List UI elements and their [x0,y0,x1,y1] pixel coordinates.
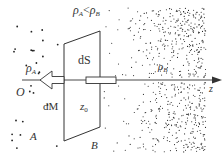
dm-label: dM [43,101,58,112]
rho-b-label: ρB [158,61,168,74]
z-axis-arrowhead-icon [212,77,222,84]
subscript-a: A [32,68,36,76]
point-a-label: A [30,131,37,142]
less-than-symbol: < [83,3,90,17]
z0-label: z0 [80,101,88,114]
rho-a-label: ρA [26,62,36,76]
subscript-b: B [96,10,100,18]
force-arrow-icon [40,71,64,89]
surface-element-dS [64,31,100,141]
origin-label: O [16,86,25,98]
subscript-b: B [163,66,167,74]
subscript-zero: 0 [84,106,88,114]
point-b-label: B [91,140,98,151]
density-condition-label: ρA<ρB [73,4,100,18]
ds-label: dS [78,54,91,66]
tube [86,77,116,84]
z-axis-label: z [209,84,213,94]
